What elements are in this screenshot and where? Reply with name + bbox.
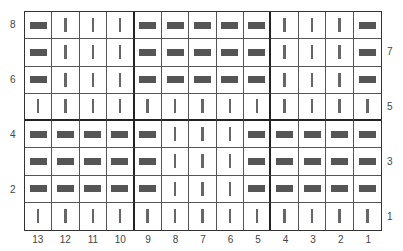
chart-cell bbox=[217, 94, 244, 121]
purl-stitch-icon bbox=[30, 76, 47, 83]
purl-stitch-icon bbox=[248, 131, 265, 138]
chart-cell bbox=[326, 148, 353, 175]
chart-cell bbox=[271, 121, 298, 148]
knit-stitch-icon bbox=[119, 99, 122, 113]
row-label-right: 3 bbox=[387, 156, 393, 167]
chart-cell bbox=[299, 94, 326, 121]
purl-stitch-icon bbox=[139, 49, 156, 56]
chart-cell bbox=[25, 67, 52, 94]
chart-cell bbox=[162, 39, 189, 66]
knit-stitch-icon bbox=[64, 99, 67, 113]
chart-cell bbox=[189, 94, 216, 121]
purl-stitch-icon bbox=[248, 158, 265, 165]
chart-cell bbox=[135, 39, 162, 66]
purl-stitch-icon bbox=[221, 22, 238, 29]
chart-cell bbox=[217, 39, 244, 66]
purl-stitch-icon bbox=[30, 158, 47, 165]
column-label: 8 bbox=[165, 234, 185, 245]
purl-stitch-icon bbox=[84, 158, 101, 165]
chart-cell bbox=[107, 176, 134, 203]
chart-cell bbox=[80, 121, 107, 148]
chart-cell bbox=[80, 39, 107, 66]
purl-stitch-icon bbox=[194, 22, 211, 29]
chart-cell bbox=[354, 12, 381, 39]
knit-stitch-icon bbox=[201, 209, 204, 223]
purl-stitch-icon bbox=[359, 131, 376, 138]
chart-cell bbox=[244, 176, 271, 203]
chart-cell bbox=[271, 12, 298, 39]
row-label-left: 6 bbox=[10, 74, 16, 85]
chart-cell bbox=[25, 203, 52, 230]
chart-cell bbox=[271, 94, 298, 121]
chart-cell bbox=[25, 176, 52, 203]
knit-stitch-icon bbox=[229, 209, 232, 223]
purl-stitch-icon bbox=[248, 49, 265, 56]
chart-cell bbox=[354, 121, 381, 148]
purl-stitch-icon bbox=[139, 158, 156, 165]
purl-stitch-icon bbox=[221, 76, 238, 83]
row-label-right: 7 bbox=[387, 46, 393, 57]
purl-stitch-icon bbox=[248, 76, 265, 83]
chart-cell bbox=[299, 67, 326, 94]
chart-cell bbox=[217, 176, 244, 203]
column-label: 13 bbox=[28, 234, 48, 245]
knit-stitch-icon bbox=[146, 99, 149, 113]
column-label: 5 bbox=[248, 234, 268, 245]
purl-stitch-icon bbox=[359, 158, 376, 165]
knit-stitch-icon bbox=[283, 45, 286, 59]
chart-cell bbox=[80, 148, 107, 175]
purl-stitch-icon bbox=[57, 131, 74, 138]
chart-cell bbox=[244, 12, 271, 39]
knit-stitch-icon bbox=[311, 99, 314, 113]
chart-cell bbox=[354, 67, 381, 94]
chart-cell bbox=[52, 121, 79, 148]
chart-cell bbox=[189, 148, 216, 175]
purl-stitch-icon bbox=[167, 76, 184, 83]
knit-stitch-icon bbox=[92, 45, 95, 59]
purl-stitch-icon bbox=[304, 131, 321, 138]
chart-cell bbox=[271, 176, 298, 203]
chart-cell bbox=[189, 176, 216, 203]
chart-cell bbox=[244, 148, 271, 175]
knit-stitch-icon bbox=[119, 73, 122, 87]
knit-stitch-icon bbox=[338, 18, 341, 32]
knit-stitch-icon bbox=[201, 154, 204, 168]
chart-cell bbox=[107, 121, 134, 148]
chart-cell bbox=[135, 148, 162, 175]
purl-stitch-icon bbox=[276, 158, 293, 165]
column-label: 6 bbox=[221, 234, 241, 245]
purl-stitch-icon bbox=[111, 185, 128, 192]
purl-stitch-icon bbox=[276, 185, 293, 192]
purl-stitch-icon bbox=[194, 76, 211, 83]
chart-cell bbox=[326, 67, 353, 94]
knit-stitch-icon bbox=[338, 209, 341, 223]
chart-cell bbox=[162, 67, 189, 94]
knit-stitch-icon bbox=[283, 209, 286, 223]
column-label: 7 bbox=[193, 234, 213, 245]
chart-cell bbox=[107, 67, 134, 94]
chart-cell bbox=[217, 121, 244, 148]
knit-stitch-icon bbox=[119, 45, 122, 59]
column-label: 2 bbox=[331, 234, 351, 245]
purl-stitch-icon bbox=[30, 131, 47, 138]
knit-stitch-icon bbox=[311, 18, 314, 32]
chart-cell bbox=[244, 39, 271, 66]
chart-cell bbox=[52, 67, 79, 94]
chart-cell bbox=[299, 148, 326, 175]
chart-cell bbox=[189, 67, 216, 94]
chart-cell bbox=[326, 121, 353, 148]
chart-cell bbox=[107, 12, 134, 39]
knit-stitch-icon bbox=[37, 99, 40, 113]
purl-stitch-icon bbox=[194, 49, 211, 56]
chart-cell bbox=[299, 203, 326, 230]
chart-cell bbox=[80, 203, 107, 230]
knit-stitch-icon bbox=[92, 18, 95, 32]
purl-stitch-icon bbox=[359, 185, 376, 192]
chart-cell bbox=[135, 121, 162, 148]
chart-cell bbox=[52, 203, 79, 230]
purl-stitch-icon bbox=[111, 158, 128, 165]
chart-cell bbox=[135, 176, 162, 203]
column-label: 11 bbox=[83, 234, 103, 245]
knit-stitch-icon bbox=[366, 99, 369, 113]
knit-stitch-icon bbox=[64, 73, 67, 87]
